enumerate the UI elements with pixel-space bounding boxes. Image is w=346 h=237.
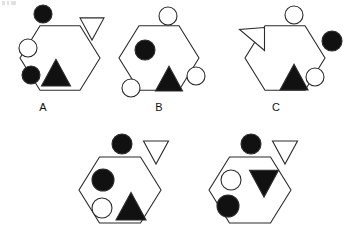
option-label-a: A	[33, 101, 53, 113]
black-circle-lower-left	[217, 195, 239, 217]
option-label-c: C	[266, 101, 286, 113]
option-label-b: B	[149, 101, 169, 113]
white-circle-lower-left	[122, 79, 140, 97]
white-circle-lower-left	[92, 198, 112, 218]
white-triangle-right	[273, 141, 298, 164]
black-circle-upper-left	[92, 169, 114, 191]
black-circle-upper-left	[135, 40, 155, 60]
answer-options-row	[19, 5, 342, 97]
white-circle-right	[187, 67, 205, 85]
white-circle-upper-left	[19, 39, 37, 57]
problem-figure-d	[79, 134, 169, 223]
white-circle-upper-left	[221, 170, 241, 190]
black-circle-right	[322, 31, 342, 51]
black-circle-top	[241, 134, 261, 154]
white-circle-inner-right	[306, 68, 324, 86]
option-c	[240, 6, 343, 90]
white-circle-top	[285, 6, 303, 24]
black-circle-lower-left	[22, 66, 40, 84]
problem-row	[79, 134, 298, 223]
option-a	[19, 5, 104, 90]
puzzle-figure	[0, 0, 346, 237]
problem-figure-e	[209, 134, 298, 223]
option-b	[119, 7, 205, 97]
white-triangle-right	[144, 141, 169, 164]
white-circle-top	[159, 7, 177, 25]
black-circle-top	[34, 5, 52, 23]
black-circle-top	[112, 134, 132, 154]
